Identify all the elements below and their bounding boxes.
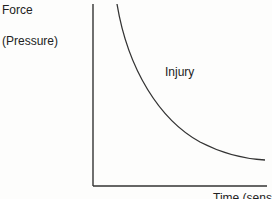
x-axis-label: Time (sensitivity) <box>213 191 272 199</box>
y-axis-label-line2: (Pressure) <box>2 34 58 48</box>
injury-curve <box>117 4 265 160</box>
chart-plot <box>0 0 272 199</box>
curve-annotation: Injury <box>165 65 194 79</box>
y-axis-label-line1: Force <box>2 3 33 17</box>
